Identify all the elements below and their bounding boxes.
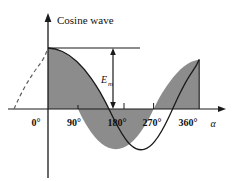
tick-label-360: 360° [179, 117, 198, 128]
figure-title: Cosine wave [57, 14, 114, 26]
amplitude-label: E [100, 74, 107, 85]
tick-label-0: 0° [32, 117, 41, 128]
cosine-wave-figure: E m 0° 90° 180° 270° 360° Cosine wave α [0, 0, 232, 181]
tick-label-180: 180° [108, 117, 127, 128]
tick-label-90: 90° [67, 117, 81, 128]
cosine-wave-plot: E m 0° 90° 180° 270° 360° Cosine wave α [0, 0, 232, 181]
amplitude-subscript: m [108, 80, 113, 88]
x-axis-label: α [210, 118, 216, 129]
tick-label-270: 270° [143, 117, 162, 128]
